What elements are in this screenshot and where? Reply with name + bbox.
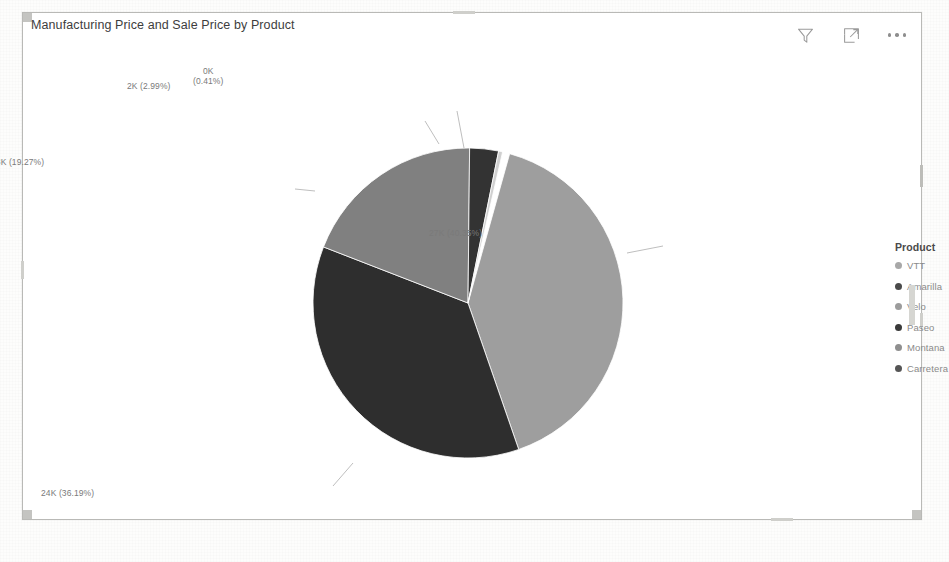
legend-color-dot [895, 324, 902, 331]
legend-item-velo[interactable]: Velo [895, 301, 949, 312]
card-edge-mark-top [453, 11, 475, 14]
pie-slice-label-3: 13K (19.27%) [0, 158, 44, 168]
legend-title: Product [895, 241, 949, 253]
more-options-dot [895, 33, 899, 37]
pie-slice-label-5-percent: (0.41%) [193, 77, 223, 87]
legend-item-paseo[interactable]: Paseo [895, 322, 949, 333]
card-edge-mark-right [920, 165, 923, 187]
legend-color-dot [895, 344, 902, 351]
more-options-dot [903, 33, 907, 37]
pie-slice-label-4: 2K (2.99%) [127, 82, 171, 92]
legend-item-label: Montana [907, 342, 945, 353]
legend-color-dot [895, 262, 902, 269]
legend-item-label: VTT [907, 260, 925, 271]
visual-header-toolbar [793, 23, 909, 47]
pie-chart-plot-area: 27K (40.35%) 24K (36.19%) 13K (19.27%) 2… [23, 39, 783, 509]
pie-slice-group [313, 148, 623, 458]
legend: Product VTTAmarillaVeloPaseoMontanaCarre… [895, 241, 949, 383]
legend-scrollbar[interactable] [909, 285, 915, 325]
more-options-dot [888, 33, 892, 37]
legend-item-amarilla[interactable]: Amarilla [895, 281, 949, 292]
card-corner-mark-bottom-right [912, 510, 921, 519]
legend-color-dot [895, 303, 902, 310]
legend-color-dot [895, 365, 902, 372]
card-corner-mark-bottom-left [23, 510, 32, 519]
pie-slice-label-1: 27K (40.35%) [429, 229, 482, 239]
visual-card: Manufacturing Price and Sale Price by Pr… [22, 12, 922, 520]
pie-slice-label-2: 24K (36.19%) [41, 489, 94, 499]
card-edge-mark-bottom [771, 518, 793, 521]
legend-item-label: Carretera [907, 363, 948, 374]
legend-color-dot [895, 283, 902, 290]
legend-item-carretera[interactable]: Carretera [895, 363, 949, 374]
pie-slice-label-5: 0K(0.41%) [193, 67, 223, 87]
legend-items: VTTAmarillaVeloPaseoMontanaCarretera [895, 260, 949, 374]
focus-mode-icon[interactable] [839, 23, 863, 47]
filter-icon[interactable] [793, 23, 817, 47]
legend-item-montana[interactable]: Montana [895, 342, 949, 353]
visual-title: Manufacturing Price and Sale Price by Pr… [31, 18, 295, 32]
legend-item-vtt[interactable]: VTT [895, 260, 949, 271]
more-options-icon[interactable] [885, 23, 909, 47]
pie-chart[interactable] [23, 39, 783, 509]
